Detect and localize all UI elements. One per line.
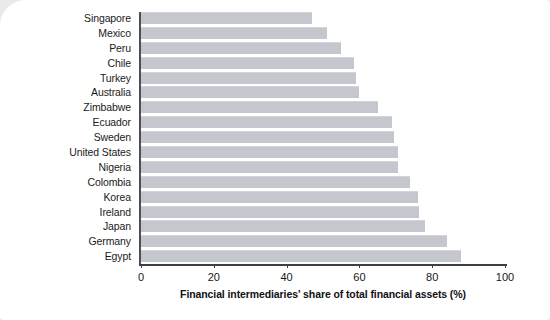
y-axis-label: Japan xyxy=(8,220,136,234)
bar-row xyxy=(141,101,505,115)
bar-turkey xyxy=(141,72,356,84)
y-axis-label: Chile xyxy=(8,57,136,71)
y-axis-label: United States xyxy=(8,146,136,160)
y-axis-label: Korea xyxy=(8,191,136,205)
bar-row xyxy=(141,146,505,160)
x-axis-tick-label: 0 xyxy=(138,271,144,283)
bar-ireland xyxy=(141,206,419,218)
bar-chile xyxy=(141,57,354,69)
y-axis-label: Singapore xyxy=(8,12,136,26)
bar-mexico xyxy=(141,27,327,39)
bar-nigeria xyxy=(141,161,398,173)
y-axis-label: Sweden xyxy=(8,131,136,145)
plot-area: 020406080100 xyxy=(141,12,505,264)
y-axis-label: Germany xyxy=(8,235,136,249)
bar-row xyxy=(141,27,505,41)
y-axis-label: Colombia xyxy=(8,176,136,190)
x-axis-tick xyxy=(141,264,142,268)
y-axis-label: Peru xyxy=(8,42,136,56)
x-axis-line xyxy=(139,264,507,266)
x-axis-tick-label: 20 xyxy=(208,271,220,283)
bar-row xyxy=(141,42,505,56)
y-axis-label: Mexico xyxy=(8,27,136,41)
bar-row xyxy=(141,220,505,234)
bar-peru xyxy=(141,42,341,54)
y-axis-label: Ireland xyxy=(8,206,136,220)
bar-row xyxy=(141,176,505,190)
bar-row xyxy=(141,131,505,145)
chart-card: Singapore Mexico Peru Chile Turkey Austr… xyxy=(0,0,550,320)
y-axis-label: Australia xyxy=(8,86,136,100)
bar-row xyxy=(141,12,505,26)
x-axis-tick-label: 100 xyxy=(496,271,514,283)
bar-chart: Singapore Mexico Peru Chile Turkey Austr… xyxy=(0,0,550,320)
bar-row xyxy=(141,57,505,71)
bar-sweden xyxy=(141,131,394,143)
x-axis-tick xyxy=(214,264,215,268)
x-axis-tick xyxy=(287,264,288,268)
bar-australia xyxy=(141,86,359,98)
bar-germany xyxy=(141,235,447,247)
x-axis-tick xyxy=(359,264,360,268)
bar-series xyxy=(141,12,505,264)
bar-ecuador xyxy=(141,116,392,128)
bar-row xyxy=(141,206,505,220)
y-axis-label: Nigeria xyxy=(8,161,136,175)
bar-row xyxy=(141,250,505,264)
bar-united-states xyxy=(141,146,398,158)
bar-singapore xyxy=(141,12,312,24)
bar-egypt xyxy=(141,250,461,262)
bar-row xyxy=(141,116,505,130)
x-axis-tick xyxy=(505,264,506,268)
x-axis-tick-label: 40 xyxy=(280,271,292,283)
bar-zimbabwe xyxy=(141,101,378,113)
bar-japan xyxy=(141,220,425,232)
bar-row xyxy=(141,72,505,86)
y-axis-label: Turkey xyxy=(8,72,136,86)
y-axis-label: Ecuador xyxy=(8,116,136,130)
bar-colombia xyxy=(141,176,410,188)
x-axis-title: Financial intermediaries' share of total… xyxy=(141,288,505,300)
x-axis-tick xyxy=(432,264,433,268)
y-axis-category-labels: Singapore Mexico Peru Chile Turkey Austr… xyxy=(8,12,136,264)
bar-row xyxy=(141,191,505,205)
y-axis-label: Egypt xyxy=(8,250,136,264)
bar-korea xyxy=(141,191,418,203)
x-axis-tick-label: 80 xyxy=(426,271,438,283)
bar-row xyxy=(141,235,505,249)
x-axis-tick-label: 60 xyxy=(353,271,365,283)
bar-row xyxy=(141,161,505,175)
bar-row xyxy=(141,86,505,100)
y-axis-label: Zimbabwe xyxy=(8,101,136,115)
